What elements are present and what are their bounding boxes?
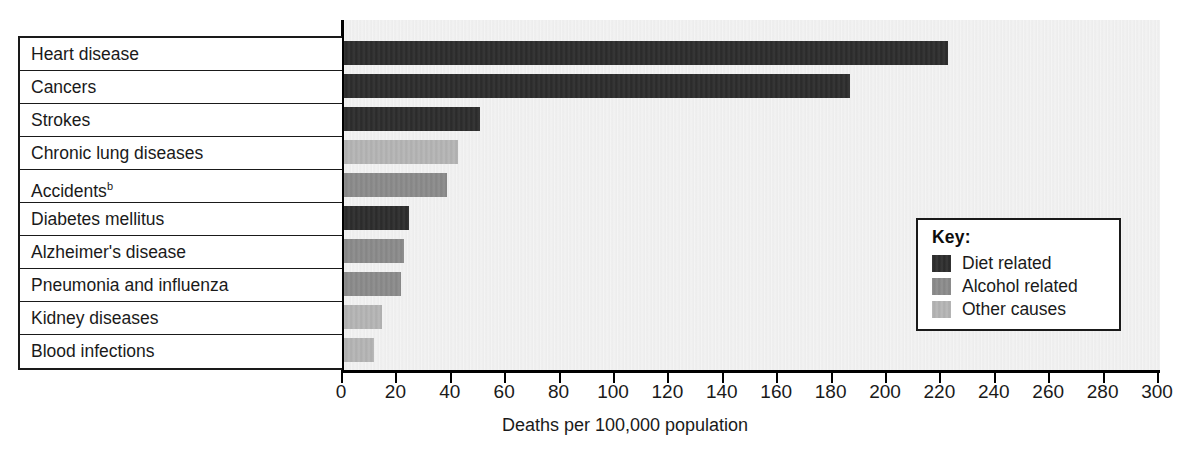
legend-item-other: Other causes bbox=[932, 298, 1119, 321]
x-axis-tick-label: 180 bbox=[815, 381, 847, 403]
legend-label-alcohol: Alcohol related bbox=[962, 276, 1078, 297]
legend-title: Key: bbox=[932, 227, 1119, 248]
legend: Key: Diet relatedAlcohol relatedOther ca… bbox=[916, 218, 1121, 331]
legend-swatch-other bbox=[932, 301, 951, 318]
legend-swatch-alcohol bbox=[932, 278, 951, 295]
bar-blood-infections bbox=[344, 338, 374, 362]
x-axis-tick-label: 0 bbox=[336, 381, 347, 403]
category-label: Kidney diseases bbox=[20, 302, 342, 335]
category-label-text: Chronic lung diseases bbox=[31, 143, 203, 163]
bar-row bbox=[344, 107, 1160, 131]
bar-cancers bbox=[344, 74, 850, 98]
category-label: Accidentsb bbox=[20, 170, 342, 203]
x-axis-tick-label: 280 bbox=[1087, 381, 1119, 403]
legend-label-other: Other causes bbox=[962, 299, 1066, 320]
bar-strokes bbox=[344, 107, 480, 131]
category-label-table: Heart diseaseCancersStrokesChronic lung … bbox=[18, 36, 342, 370]
bar-pneumonia-and-influenza bbox=[344, 272, 401, 296]
bar-row bbox=[344, 74, 1160, 98]
legend-items: Diet relatedAlcohol relatedOther causes bbox=[932, 252, 1119, 321]
bar-chart: Heart diseaseCancersStrokesChronic lung … bbox=[0, 0, 1188, 449]
category-label: Alzheimer's disease bbox=[20, 236, 342, 269]
x-axis-tick-label: 120 bbox=[652, 381, 684, 403]
category-label: Cancers bbox=[20, 71, 342, 104]
bar-row bbox=[344, 173, 1160, 197]
bar-heart-disease bbox=[344, 41, 948, 65]
category-label: Heart disease bbox=[20, 38, 342, 71]
category-label: Strokes bbox=[20, 104, 342, 137]
bar-row bbox=[344, 338, 1160, 362]
category-label-text: Alzheimer's disease bbox=[31, 242, 186, 262]
x-axis-tick-label: 200 bbox=[869, 381, 901, 403]
x-axis-tick-label: 140 bbox=[706, 381, 738, 403]
legend-item-diet: Diet related bbox=[932, 252, 1119, 275]
bar-kidney-diseases bbox=[344, 305, 382, 329]
x-axis-title: Deaths per 100,000 population bbox=[0, 415, 1188, 436]
bar-chronic-lung-diseases bbox=[344, 140, 458, 164]
x-axis-tick-label: 300 bbox=[1141, 381, 1173, 403]
x-axis-title-text: Deaths per 100,000 population bbox=[440, 415, 748, 436]
category-label-text: Heart disease bbox=[31, 44, 139, 64]
category-label-text: Strokes bbox=[31, 110, 90, 130]
category-label-text: Kidney diseases bbox=[31, 308, 158, 328]
category-label: Diabetes mellitus bbox=[20, 203, 342, 236]
x-axis-tick-label: 160 bbox=[760, 381, 792, 403]
x-axis-tick-label: 100 bbox=[597, 381, 629, 403]
category-label: Blood infections bbox=[20, 335, 342, 368]
x-axis-tick-label: 80 bbox=[548, 381, 569, 403]
category-label-text: Diabetes mellitus bbox=[31, 209, 164, 229]
bar-accidents bbox=[344, 173, 447, 197]
bar-diabetes-mellitus bbox=[344, 206, 409, 230]
bar-row bbox=[344, 140, 1160, 164]
category-label: Pneumonia and influenza bbox=[20, 269, 342, 302]
category-label-text: Accidents bbox=[31, 181, 107, 201]
x-axis-tick-label: 260 bbox=[1032, 381, 1064, 403]
legend-label-diet: Diet related bbox=[962, 253, 1052, 274]
x-axis-tick-label: 240 bbox=[978, 381, 1010, 403]
x-axis-tick-label: 20 bbox=[385, 381, 406, 403]
x-axis-tick-label: 60 bbox=[494, 381, 515, 403]
category-label-text: Cancers bbox=[31, 77, 96, 97]
category-footnote-marker: b bbox=[107, 180, 113, 192]
legend-item-alcohol: Alcohol related bbox=[932, 275, 1119, 298]
x-axis-tick-label: 220 bbox=[924, 381, 956, 403]
category-label-text: Pneumonia and influenza bbox=[31, 275, 229, 295]
bar-alzheimer-s-disease bbox=[344, 239, 404, 263]
category-label: Chronic lung diseases bbox=[20, 137, 342, 170]
bar-row bbox=[344, 41, 1160, 65]
category-label-text: Blood infections bbox=[31, 341, 155, 361]
legend-swatch-diet bbox=[932, 255, 951, 272]
x-axis-tick-label: 40 bbox=[439, 381, 460, 403]
